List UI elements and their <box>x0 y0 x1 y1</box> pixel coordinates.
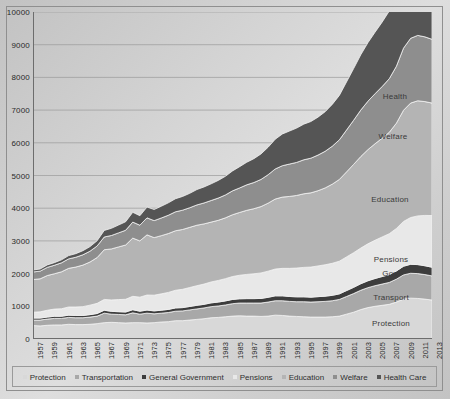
legend-item[interactable]: Protection <box>23 373 66 382</box>
legend-label: Welfare <box>340 373 367 382</box>
x-axis-tick-label: 1969 <box>122 342 131 359</box>
legend-swatch-icon <box>377 375 381 379</box>
x-axis-tick-label: 1963 <box>79 342 88 359</box>
legend-swatch-icon <box>233 375 237 379</box>
y-axis-tick-label: 6000 <box>11 138 30 147</box>
legend-item[interactable]: Pensions <box>233 373 273 382</box>
x-axis-tick-label: 1995 <box>307 342 316 359</box>
series-label-protection: Protection <box>372 319 410 328</box>
legend-item[interactable]: Transportation <box>75 373 133 382</box>
x-axis-tick-label: 1979 <box>193 342 202 359</box>
x-axis-tick-label: 2003 <box>364 342 373 359</box>
y-axis-tick-label: 5000 <box>11 171 30 180</box>
legend-item[interactable]: Welfare <box>333 373 367 382</box>
legend-item[interactable]: Education <box>282 373 325 382</box>
x-axis-tick-label: 1983 <box>221 342 230 359</box>
x-axis-tick-label: 2007 <box>392 342 401 359</box>
y-axis-tick-label: 1000 <box>11 302 30 311</box>
legend-label: Transportation <box>82 373 133 382</box>
stacked-area-plot <box>33 12 432 339</box>
series-label-welfare: Welfare <box>379 132 408 141</box>
x-axis-tick-label: 1967 <box>107 342 116 359</box>
x-axis-tick-label: 1987 <box>250 342 259 359</box>
x-axis-tick-label: 1973 <box>150 342 159 359</box>
x-axis-tick-label: 1959 <box>50 342 59 359</box>
x-axis-tick-label: 1965 <box>93 342 102 359</box>
legend-label: Pensions <box>240 373 273 382</box>
x-axis-tick-label: 1989 <box>264 342 273 359</box>
x-axis-tick-label: 1977 <box>179 342 188 359</box>
x-axis-tick-label: 1993 <box>293 342 302 359</box>
y-axis-tick-label: 0 <box>25 335 30 344</box>
legend-label: Protection <box>30 373 66 382</box>
y-axis: 0100020003000400050006000700080009000100… <box>0 12 30 339</box>
x-axis-tick-label: 1961 <box>65 342 74 359</box>
y-axis-tick-label: 3000 <box>11 236 30 245</box>
series-label-gov: Gov <box>382 269 397 278</box>
x-axis-tick-label: 1985 <box>236 342 245 359</box>
y-axis-tick-label: 9000 <box>11 40 30 49</box>
legend-swatch-icon <box>333 375 337 379</box>
legend-label: Education <box>289 373 325 382</box>
legend-item[interactable]: Health Care <box>377 373 427 382</box>
x-axis-tick-label: 1997 <box>321 342 330 359</box>
x-axis-tick-label: 1999 <box>335 342 344 359</box>
x-axis-tick-label: 2011 <box>421 342 430 359</box>
series-label-health: Health <box>383 92 407 101</box>
legend-swatch-icon <box>23 375 27 379</box>
x-axis-tick-label: 2005 <box>378 342 387 359</box>
y-axis-tick-label: 2000 <box>11 269 30 278</box>
y-axis-tick-label: 7000 <box>11 106 30 115</box>
x-axis-tick-label: 1975 <box>164 342 173 359</box>
chart-container: 0100020003000400050006000700080009000100… <box>0 0 450 399</box>
y-axis-tick-label: 10000 <box>7 8 30 17</box>
legend-swatch-icon <box>282 375 286 379</box>
x-axis-tick-label: 1991 <box>278 342 287 359</box>
x-axis-tick-label: 2001 <box>350 342 359 359</box>
y-axis-tick-label: 4000 <box>11 204 30 213</box>
legend-label: Health Care <box>384 373 427 382</box>
x-axis-tick-label: 1971 <box>136 342 145 359</box>
legend-swatch-icon <box>75 375 79 379</box>
x-axis-tick-label: 2009 <box>407 342 416 359</box>
x-axis-tick-label: 2013 <box>435 342 444 359</box>
x-axis-tick-label: 1957 <box>36 342 45 359</box>
series-label-pensions: Pensions <box>374 255 409 264</box>
series-label-transport: Transport <box>373 293 409 302</box>
chart-legend: ProtectionTransportationGeneral Governme… <box>12 369 437 385</box>
legend-swatch-icon <box>142 375 146 379</box>
legend-item[interactable]: General Government <box>142 373 224 382</box>
x-axis-tick-label: 1981 <box>207 342 216 359</box>
y-axis-tick-label: 8000 <box>11 73 30 82</box>
legend-label: General Government <box>149 373 224 382</box>
series-label-education: Education <box>371 195 408 204</box>
x-axis: 1957195919611963196519671969197119731975… <box>33 342 432 368</box>
